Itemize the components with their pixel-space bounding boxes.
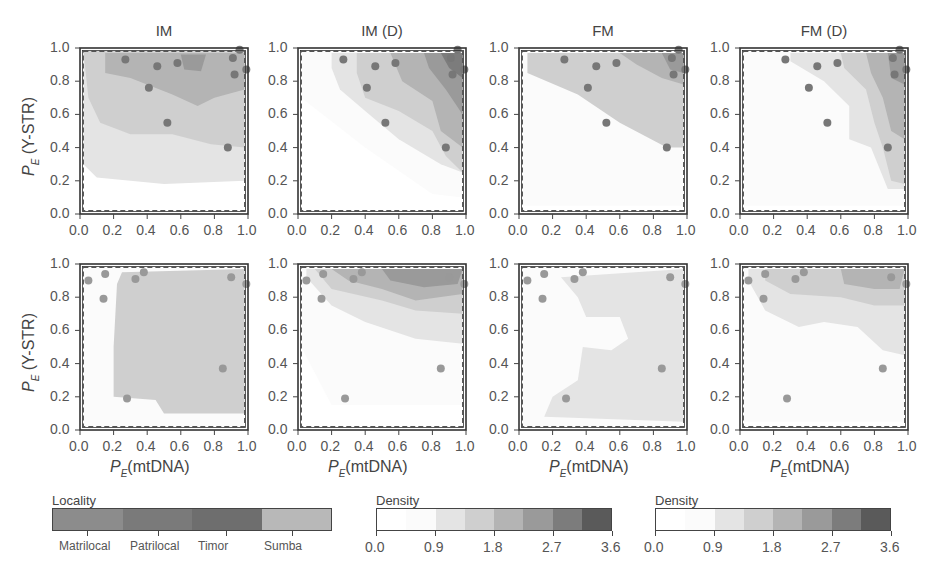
y-axis-subscript: E [30,159,41,166]
y-tick-label: 0.6 [50,105,69,121]
density-plot [80,48,248,214]
data-point [460,280,468,288]
data-point [813,62,821,70]
x-tick-label: 0.2 [103,438,122,454]
data-point [219,365,227,373]
data-point [318,295,326,303]
data-point [302,277,310,285]
data-point [123,394,131,402]
x-tick-label: 0.8 [203,222,222,238]
density-swatch [494,509,523,530]
data-point [891,71,899,79]
density-tick-label: 1.8 [483,539,502,555]
x-tick-label: 1.0 [237,222,256,238]
locality-tick [226,531,227,536]
data-point [381,119,389,127]
x-tick-label: 0.6 [388,222,407,238]
x-tick-label: 0.6 [170,222,189,238]
y-tick-label: 0.0 [268,421,287,437]
panel-title: FM (D) [740,22,908,39]
data-point [570,275,578,283]
x-axis-subscript: E [560,468,567,479]
locality-tick [158,531,159,536]
locality-swatch [262,509,332,530]
plot-panel-r1-c4 [740,48,908,214]
data-point [539,295,547,303]
y-tick-label: 0.6 [710,105,729,121]
data-point [800,268,808,276]
density-swatch [582,509,611,530]
y-axis-symbol: P [20,165,37,176]
y-tick-label: 0.2 [489,388,508,404]
y-tick-label: 0.4 [268,139,287,155]
density-tick-label: 2.7 [821,539,840,555]
density-swatch [861,509,890,530]
y-tick-label: 0.2 [710,388,729,404]
density-tick-label: 0.9 [703,539,722,555]
data-point [227,273,235,281]
y-tick-label: 0.8 [50,72,69,88]
data-point [84,277,92,285]
density-tick-label: 2.7 [542,539,561,555]
density-swatch [553,509,582,530]
panel-title: IM (D) [298,22,466,39]
y-tick-label: 1.0 [50,255,69,271]
data-point [236,46,244,54]
density-tick [553,531,554,536]
x-tick-label: 1.0 [897,222,916,238]
x-axis-label: PE(mtDNA) [549,458,629,476]
data-point [145,84,153,92]
x-tick-label: 0.0 [287,438,306,454]
y-tick-label: 0.2 [50,172,69,188]
x-tick-label: 0.2 [542,222,561,238]
data-point [319,270,327,278]
x-axis-label: PE(mtDNA) [770,458,850,476]
x-axis-label: PE(mtDNA) [328,458,408,476]
density-tick [655,531,656,536]
data-point [612,59,620,67]
x-tick-label: 0.0 [69,222,88,238]
locality-tick [87,531,88,536]
x-tick-label: 0.0 [508,438,527,454]
y-tick-label: 0.2 [268,388,287,404]
data-point [562,394,570,402]
density-tick [494,531,495,536]
data-point [805,84,813,92]
locality-swatch [192,509,262,530]
data-point [833,59,841,67]
density-swatch [465,509,494,530]
locality-label: Timor [198,539,228,553]
data-point [896,46,904,54]
plot-panel-r1-c2 [298,48,466,214]
y-tick-label: 0.4 [489,139,508,155]
x-tick-label: 0.4 [354,222,373,238]
x-axis-symbol: P [770,458,781,475]
data-point [540,270,548,278]
y-tick-label: 0.4 [50,139,69,155]
y-tick-label: 0.0 [268,205,287,221]
density-contour [114,269,245,413]
y-tick-label: 0.2 [50,388,69,404]
plot-panel-r2-c4 [740,264,908,430]
locality-swatch [53,509,123,530]
y-tick-label: 0.0 [710,205,729,221]
y-tick-label: 0.2 [489,172,508,188]
x-tick-label: 0.0 [508,222,527,238]
density-tick [612,531,613,536]
data-point [131,275,139,283]
data-point [358,268,366,276]
x-tick-label: 0.6 [388,438,407,454]
y-tick-label: 1.0 [268,39,287,55]
figure-root: 0.00.00.20.20.40.40.60.60.80.81.01.0IM0.… [0,0,945,580]
density-plot [740,264,908,430]
x-tick-label: 0.2 [763,438,782,454]
y-tick-label: 0.2 [268,172,287,188]
y-tick-label: 0.0 [710,421,729,437]
x-tick-label: 0.8 [863,222,882,238]
y-tick-label: 1.0 [710,39,729,55]
locality-legend-title: Locality [52,493,96,508]
x-axis-symbol: P [110,458,121,475]
data-point [121,56,129,64]
y-tick-label: 1.0 [489,39,508,55]
data-point [889,54,897,62]
